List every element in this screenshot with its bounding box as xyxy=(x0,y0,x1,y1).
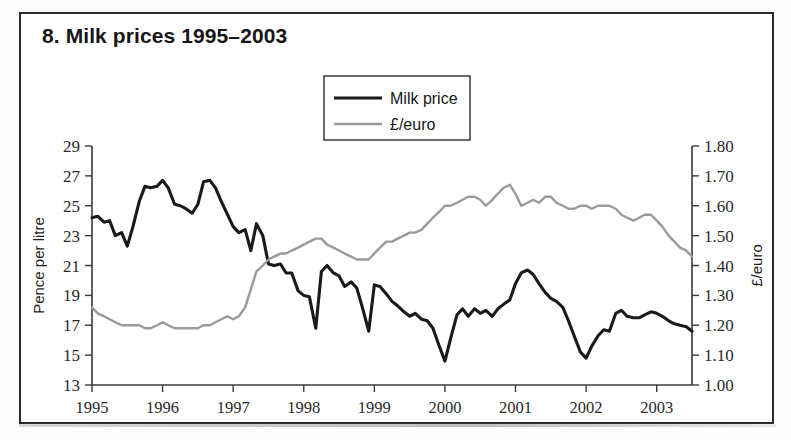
y-axis-left-title: Pence per litre xyxy=(30,217,47,314)
x-axis-tick-label: 1998 xyxy=(287,398,320,417)
y-axis-left-tick-label: 21 xyxy=(63,257,80,276)
y-axis-right-tick-label: 1.30 xyxy=(704,286,734,305)
x-axis-tick-label: 2002 xyxy=(570,398,603,417)
x-axis-tick-label: 2000 xyxy=(428,398,461,417)
y-axis-left-tick-label: 15 xyxy=(63,346,80,365)
series-line-milk-price xyxy=(92,180,692,361)
x-axis-tick-label: 1995 xyxy=(76,398,109,417)
y-axis-right-tick-label: 1.60 xyxy=(704,197,734,216)
y-axis-right-tick-label: 1.50 xyxy=(704,227,734,246)
x-axis-tick-label: 1999 xyxy=(358,398,391,417)
y-axis-left-tick-label: 29 xyxy=(63,137,80,156)
x-axis-tick-label: 2003 xyxy=(640,398,673,417)
y-axis-left-tick-label: 13 xyxy=(63,376,80,395)
y-axis-left-tick-label: 25 xyxy=(63,197,80,216)
x-axis-tick-label: 1997 xyxy=(217,398,250,417)
y-axis-right-tick-label: 1.00 xyxy=(704,376,734,395)
y-axis-left-tick-label: 17 xyxy=(63,316,81,335)
chart-canvas: 1315171921232527291.001.101.201.301.401.… xyxy=(0,0,791,440)
y-axis-left-tick-label: 23 xyxy=(63,227,80,246)
y-axis-left-tick-label: 27 xyxy=(63,167,81,186)
y-axis-right-tick-label: 1.20 xyxy=(704,316,734,335)
y-axis-right-tick-label: 1.10 xyxy=(704,346,734,365)
legend-label-milk-price: Milk price xyxy=(390,90,458,107)
y-axis-right-tick-label: 1.80 xyxy=(704,137,734,156)
x-axis-tick-label: 2001 xyxy=(499,398,532,417)
legend-label-gbp-euro: £/euro xyxy=(390,116,435,133)
x-axis-tick-label: 1996 xyxy=(146,398,179,417)
chart-figure: 8. Milk prices 1995–2003 131517192123252… xyxy=(0,0,791,440)
page-edge-shadow xyxy=(19,424,776,427)
y-axis-right-title: £/euro xyxy=(748,244,765,287)
y-axis-right-tick-label: 1.70 xyxy=(704,167,734,186)
y-axis-right-tick-label: 1.40 xyxy=(704,257,734,276)
y-axis-left-tick-label: 19 xyxy=(63,286,80,305)
